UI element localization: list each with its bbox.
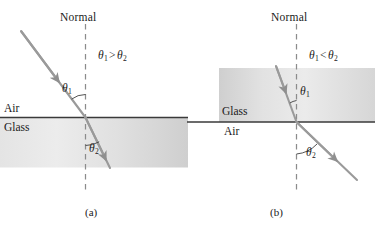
medium-label-glass: Glass bbox=[222, 106, 248, 118]
ineq-theta2-subscript: 2 bbox=[123, 54, 127, 63]
medium-label-glass: Glass bbox=[4, 122, 30, 134]
theta2-subscript: 2 bbox=[95, 147, 99, 156]
refraction-figure: Normal θ1>θ2 θ1 Air Glass θ2 (a) bbox=[0, 0, 375, 225]
ineq-theta2-subscript: 2 bbox=[334, 54, 338, 63]
theta2-subscript: 2 bbox=[312, 151, 316, 160]
normal-label: Normal bbox=[60, 12, 96, 24]
refracted-ray-arrow bbox=[297, 122, 338, 161]
ineq-operator: > bbox=[107, 49, 117, 61]
medium-label-air: Air bbox=[4, 103, 19, 115]
angle-label-theta2: θ2 bbox=[306, 147, 315, 159]
panel-b-caption: (b) bbox=[270, 207, 283, 218]
ineq-theta1-subscript: 1 bbox=[315, 54, 319, 63]
incident-ray-arrow bbox=[21, 31, 59, 82]
ineq-theta1-subscript: 1 bbox=[104, 54, 108, 63]
theta2-symbol: θ bbox=[306, 146, 312, 158]
ineq-theta1-symbol: θ bbox=[309, 49, 315, 61]
angle-label-theta1: θ1 bbox=[300, 86, 309, 98]
panel-a-caption: (a) bbox=[85, 207, 97, 218]
angle-arc-theta1 bbox=[72, 94, 86, 99]
angle-label-theta2: θ2 bbox=[89, 143, 98, 155]
theta1-subscript: 1 bbox=[306, 90, 310, 99]
ineq-theta1-symbol: θ bbox=[98, 49, 104, 61]
ineq-theta2-symbol: θ bbox=[328, 49, 334, 61]
medium-label-air: Air bbox=[224, 126, 239, 138]
ineq-theta2-symbol: θ bbox=[117, 49, 123, 61]
inequality-theta1-gt-theta2: θ1>θ2 bbox=[98, 50, 126, 62]
panel-b-graphics bbox=[187, 0, 375, 225]
theta1-symbol: θ bbox=[300, 85, 306, 97]
ineq-operator: < bbox=[318, 49, 328, 61]
angle-label-theta1: θ1 bbox=[62, 83, 71, 95]
normal-label: Normal bbox=[271, 12, 307, 24]
panel-a-air-to-glass: Normal θ1>θ2 θ1 Air Glass θ2 (a) bbox=[0, 0, 188, 225]
theta1-symbol: θ bbox=[62, 82, 68, 94]
inequality-theta1-lt-theta2: θ1<θ2 bbox=[309, 50, 337, 62]
panel-a-graphics bbox=[0, 0, 188, 225]
panel-b-glass-to-air: Normal θ1<θ2 θ1 Glass Air θ2 (b) bbox=[187, 0, 375, 225]
theta2-symbol: θ bbox=[89, 142, 95, 154]
theta1-subscript: 1 bbox=[68, 87, 72, 96]
